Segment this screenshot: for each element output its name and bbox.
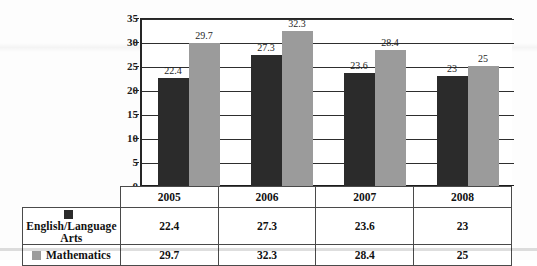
bar-mathematics-2006 bbox=[282, 31, 313, 186]
bar-english-language-arts-2005 bbox=[158, 78, 189, 186]
bar-value-label: 27.3 bbox=[257, 43, 275, 53]
table-row: Mathematics 29.7 32.3 28.4 25 bbox=[23, 245, 512, 266]
table-row: English/Language Arts 22.4 27.3 23.6 23 bbox=[23, 208, 512, 245]
y-axis-tick-mark bbox=[134, 66, 139, 67]
bar-value-label: 22.4 bbox=[164, 66, 182, 76]
bar-mathematics-2007 bbox=[375, 50, 406, 186]
legend-row-mathematics: Mathematics bbox=[23, 245, 121, 266]
table-cell: 25 bbox=[414, 245, 512, 266]
plot-area: 22.429.727.332.323.628.42325 bbox=[140, 18, 512, 186]
data-table: 2005 2006 2007 2008 English/Language Art… bbox=[22, 186, 512, 266]
table-cell: 32.3 bbox=[218, 245, 316, 266]
bar-value-label: 25 bbox=[478, 54, 488, 64]
bar-mathematics-2005 bbox=[189, 43, 220, 186]
legend-swatch-english-icon bbox=[64, 210, 73, 219]
bar-value-label: 32.3 bbox=[288, 19, 306, 29]
legend-swatch-mathematics-icon bbox=[32, 251, 41, 260]
data-table-wrapper: 2005 2006 2007 2008 English/Language Art… bbox=[22, 186, 512, 248]
y-axis-tick-mark bbox=[134, 90, 139, 91]
bar-english-language-arts-2007 bbox=[344, 73, 375, 186]
legend-label-english: English/Language Arts bbox=[23, 220, 120, 244]
bar-mathematics-2008 bbox=[468, 66, 499, 186]
table-row-years: 2005 2006 2007 2008 bbox=[23, 187, 512, 208]
year-header-cell: 2008 bbox=[414, 187, 512, 208]
bar-value-label: 23 bbox=[447, 64, 457, 74]
table-cell: 23 bbox=[414, 208, 512, 245]
table-cell: 28.4 bbox=[316, 245, 414, 266]
year-header-cell: 2007 bbox=[316, 187, 414, 208]
table-corner-cell bbox=[23, 187, 121, 208]
y-axis-tick-mark bbox=[134, 18, 139, 19]
table-cell: 23.6 bbox=[316, 208, 414, 245]
year-header-cell: 2006 bbox=[218, 187, 316, 208]
table-cell: 27.3 bbox=[218, 208, 316, 245]
bar-english-language-arts-2006 bbox=[251, 55, 282, 186]
y-axis-tick-mark bbox=[134, 138, 139, 139]
y-axis-tick-mark bbox=[134, 114, 139, 115]
table-cell: 29.7 bbox=[120, 245, 218, 266]
bar-value-label: 29.7 bbox=[195, 31, 213, 41]
bar-english-language-arts-2008 bbox=[437, 76, 468, 186]
bar-value-label: 28.4 bbox=[381, 38, 399, 48]
gridline bbox=[142, 19, 514, 20]
legend-row-english: English/Language Arts bbox=[23, 208, 121, 245]
y-axis: 05101520253035 bbox=[100, 18, 138, 186]
bar-value-label: 23.6 bbox=[350, 61, 368, 71]
plot-area-wrapper: 22.429.727.332.323.628.42325 bbox=[140, 18, 512, 186]
legend-label-mathematics: Mathematics bbox=[46, 249, 111, 261]
y-axis-tick-mark bbox=[134, 162, 139, 163]
year-header-cell: 2005 bbox=[120, 187, 218, 208]
y-axis-tick-mark bbox=[134, 42, 139, 43]
table-cell: 22.4 bbox=[120, 208, 218, 245]
